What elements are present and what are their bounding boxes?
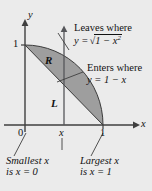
radicand-body: 1 − x — [95, 35, 117, 46]
callout-enters: Enters where y = 1 − x — [87, 62, 142, 85]
sqrt-symbol-group: √1 − x2 — [88, 34, 122, 46]
callout-leaves: Leaves where y =√1 − x2 — [74, 22, 132, 46]
region-label-lower-L: L — [51, 98, 58, 110]
y-axis-arrowhead — [22, 19, 29, 26]
callout-leaves-eq-lhs: y = — [74, 35, 88, 46]
y-tick-label-1: 1 — [13, 38, 18, 49]
x-axis-label: x — [141, 118, 146, 129]
callout-leaves-line1: Leaves where — [74, 22, 132, 33]
vertical-sweep-arrowhead — [61, 26, 68, 33]
callout-leaves-equation: y =√1 − x2 — [74, 34, 132, 46]
x-tick-label-1: 1 — [100, 127, 105, 138]
footnote-smallest-x: Smallest x is x = 0 — [6, 155, 49, 177]
callout-enters-equation: y = 1 − x — [87, 74, 142, 85]
x-axis-arrowhead — [133, 122, 140, 129]
x-tick-label-x: x — [59, 127, 64, 138]
region-label-upper-R: R — [45, 55, 52, 67]
radicand-exponent: 2 — [117, 34, 121, 42]
callout-enters-line1: Enters where — [87, 62, 142, 73]
footnote-largest-line2: is x = 1 — [80, 166, 119, 177]
y-axis-label: y — [28, 9, 33, 20]
x-tick-label-0: 0 — [18, 127, 23, 138]
footnote-largest-x: Largest x is x = 1 — [80, 155, 119, 177]
footnote-smallest-line2: is x = 0 — [6, 166, 49, 177]
radicand-expression: 1 − x2 — [94, 34, 122, 46]
figure-region-between-curves: y x 1 0 x 1 R L Leaves where y =√1 − x2 … — [0, 0, 152, 191]
footnote-largest-line1: Largest x — [80, 155, 119, 166]
footnote-smallest-line1: Smallest x — [6, 155, 49, 166]
